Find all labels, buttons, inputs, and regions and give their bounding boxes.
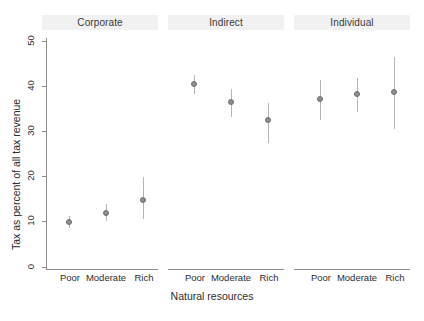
- x-tick-label-corporate-rich: Rich: [124, 272, 164, 284]
- panel-title-indirect: Indirect: [168, 15, 284, 30]
- data-point: [140, 197, 146, 203]
- data-point: [191, 81, 197, 87]
- y-axis-line: [46, 38, 47, 269]
- x-tick-label-individual-rich: Rich: [375, 272, 415, 284]
- data-point: [265, 117, 271, 123]
- y-tick-label-30: 30: [25, 121, 36, 141]
- y-tick-10: [42, 221, 46, 222]
- x-tick-label-indirect-moderate: Moderate: [207, 272, 255, 284]
- y-tick-30: [42, 131, 46, 132]
- y-axis-title: Tax as percent of all tax revenue: [10, 99, 22, 250]
- data-point: [103, 210, 109, 216]
- y-tick-label-50: 50: [25, 31, 36, 51]
- x-tick-label-indirect-rich: Rich: [249, 272, 289, 284]
- data-point: [228, 99, 234, 105]
- data-point: [317, 96, 323, 102]
- x-tick-label-corporate-moderate: Moderate: [82, 272, 130, 284]
- panel-title-corporate: Corporate: [42, 15, 158, 30]
- y-tick-40: [42, 86, 46, 87]
- chart-figure: Corporate Indirect Individual 50 40 30 2…: [0, 0, 424, 321]
- x-axis-line-corporate: [46, 269, 158, 270]
- data-point: [391, 89, 397, 95]
- data-point: [354, 91, 360, 97]
- x-axis-line-individual: [294, 269, 410, 270]
- y-tick-20: [42, 176, 46, 177]
- error-bar: [268, 103, 269, 143]
- data-point: [66, 219, 72, 225]
- y-tick-label-0: 0: [25, 257, 36, 277]
- x-tick-label-individual-moderate: Moderate: [333, 272, 381, 284]
- x-axis-title: Natural resources: [0, 290, 424, 302]
- y-tick-50: [42, 41, 46, 42]
- y-tick-label-40: 40: [25, 76, 36, 96]
- x-axis-line-indirect: [168, 269, 284, 270]
- panel-title-individual: Individual: [294, 15, 410, 30]
- y-tick-0: [42, 267, 46, 268]
- y-tick-label-20: 20: [25, 166, 36, 186]
- y-tick-label-10: 10: [25, 211, 36, 231]
